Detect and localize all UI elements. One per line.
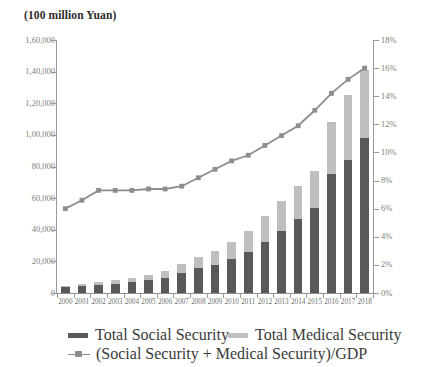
y-axis-right-tick-label: 14% [381, 92, 397, 101]
ratio-line-marker [80, 198, 85, 203]
y-axis-right-tick-label: 6% [381, 204, 392, 213]
x-axis-tick [57, 294, 58, 298]
x-axis-tick [356, 294, 357, 298]
legend-swatch-light-icon [228, 333, 248, 338]
x-axis-tick [74, 294, 75, 298]
x-axis-tick [373, 294, 374, 298]
ratio-line-marker [246, 153, 251, 158]
y-axis-right-tick [374, 96, 379, 97]
x-axis-tick [240, 294, 241, 298]
x-axis-tick [323, 294, 324, 298]
x-axis-tick [173, 294, 174, 298]
ratio-line-marker [163, 187, 168, 192]
y-axis-right-tick-label: 4% [381, 232, 392, 241]
y-axis-left-tick [51, 198, 56, 199]
legend-line-marker-icon [68, 351, 90, 358]
ratio-line-marker [329, 91, 334, 96]
ratio-line-marker [146, 187, 151, 192]
ratio-line-marker [96, 188, 101, 193]
ratio-line-marker [213, 167, 218, 172]
x-axis-tick [290, 294, 291, 298]
y-axis-right-tick [374, 237, 379, 238]
ratio-line-marker [179, 184, 184, 189]
y-axis-right-tick [374, 68, 379, 69]
chart-unit-title: (100 million Yuan) [24, 9, 116, 21]
ratio-line-marker [63, 206, 68, 211]
y-axis-left-tick [51, 103, 56, 104]
x-axis-tick [90, 294, 91, 298]
y-axis-left-tick [51, 72, 56, 73]
y-axis-left-tick [51, 293, 56, 294]
y-axis-right-tick [374, 209, 379, 210]
y-axis-right-tick [374, 40, 379, 41]
ratio-line-marker [346, 77, 351, 82]
x-axis-tick [107, 294, 108, 298]
chart-container: (100 million Yuan) 020,00040,00060,00080… [0, 0, 434, 367]
y-axis-right-tick-label: 18% [381, 36, 397, 45]
x-axis-tick-label: 2018 [355, 299, 375, 306]
legend-swatch-dark-icon [68, 333, 88, 338]
y-axis-right-tick-label: 8% [381, 176, 392, 185]
x-axis-tick [140, 294, 141, 298]
legend-item-total-medical-security[interactable]: Total Medical Security [228, 326, 401, 344]
x-axis-tick [223, 294, 224, 298]
legend-label-total-medical-security: Total Medical Security [255, 326, 401, 344]
x-axis-line [56, 293, 374, 294]
ratio-line-marker [113, 188, 118, 193]
x-axis-tick [340, 294, 341, 298]
y-axis-right-tick-label: 16% [381, 64, 397, 73]
y-axis-left-tick [51, 167, 56, 168]
y-axis-right-line [373, 40, 374, 294]
ratio-line-marker [129, 188, 134, 193]
legend-label-ratio-gdp: (Social Security + Medical Security)/GDP [96, 345, 367, 363]
y-axis-right-tick-label: 0% [381, 289, 392, 298]
legend-label-total-social-security: Total Social Security [95, 326, 229, 344]
x-axis-tick [157, 294, 158, 298]
ratio-line-series [57, 40, 373, 293]
y-axis-left-tick [51, 261, 56, 262]
y-axis-left-tick [51, 135, 56, 136]
y-axis-right-tick-label: 12% [381, 120, 397, 129]
ratio-line-marker [296, 123, 301, 128]
y-axis-left-tick [51, 40, 56, 41]
y-axis-right-tick [374, 181, 379, 182]
y-axis-right-tick [374, 124, 379, 125]
ratio-line-marker [312, 108, 317, 113]
legend-item-total-social-security[interactable]: Total Social Security [68, 326, 229, 344]
ratio-line-path [65, 68, 364, 209]
y-axis-left-tick [51, 230, 56, 231]
ratio-line-marker [262, 143, 267, 148]
x-axis-tick [257, 294, 258, 298]
x-axis-tick [190, 294, 191, 298]
x-axis-tick [273, 294, 274, 298]
y-axis-right-tick [374, 265, 379, 266]
y-axis-right-tick [374, 293, 379, 294]
ratio-line-marker [362, 66, 367, 71]
x-axis-tick [124, 294, 125, 298]
y-axis-right-tick [374, 152, 379, 153]
y-axis-right-tick-label: 10% [381, 148, 397, 157]
ratio-line-marker [279, 133, 284, 138]
x-axis-tick [306, 294, 307, 298]
x-axis-tick [207, 294, 208, 298]
legend-item-ratio-gdp[interactable]: (Social Security + Medical Security)/GDP [68, 345, 367, 363]
ratio-line-marker [229, 158, 234, 163]
y-axis-right-tick-label: 2% [381, 260, 392, 269]
ratio-line-marker [196, 175, 201, 180]
